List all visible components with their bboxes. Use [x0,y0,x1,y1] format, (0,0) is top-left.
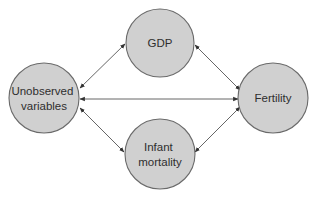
node-infant-mortality: Infant mortality [125,119,195,189]
node-label-line: Infant [144,141,174,153]
node-gdp: GDP [126,9,194,77]
node-label: Fertility [254,92,291,104]
edge-unobserved-infant-mortality [80,108,124,152]
node-label-line: Unobserved [11,85,73,97]
node-label-line: GDP [148,37,173,49]
causal-diagram: Unobserved variables GDP Fertility Infan… [0,0,318,202]
node-label-line: Fertility [254,92,291,104]
node-label-line: mortality [138,156,182,168]
node-label-line: variables [21,100,67,112]
node-fertility: Fertility [238,63,308,133]
edge-infant-mortality-fertility [195,107,240,152]
node-label: GDP [148,37,173,49]
node-circle [9,63,79,133]
edge-unobserved-gdp [80,44,125,88]
edge-gdp-fertility [195,45,240,90]
node-circle [125,119,195,189]
node-unobserved-variables: Unobserved variables [9,63,79,133]
